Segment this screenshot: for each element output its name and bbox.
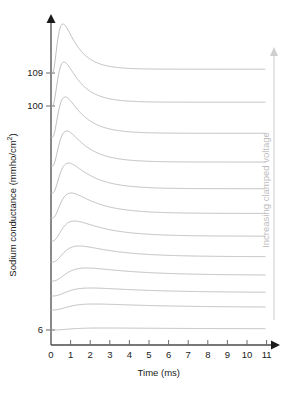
svg-text:Sodium conductance (mmho/cm2): Sodium conductance (mmho/cm2) [6,133,18,276]
conductance-curve [51,221,265,241]
annotation-up-arrow-icon [270,47,278,56]
x-tick-label: 0 [48,349,53,360]
y-tick-label: 109 [27,67,43,78]
conductance-curve [51,304,265,310]
y-axis-title: Sodium conductance (mmho/cm2) [6,133,18,276]
conductance-curve [51,163,265,193]
x-tick-label: 8 [205,349,210,360]
chart-figure: 01234567891011Time (ms)1091006Sodium con… [0,0,293,393]
conductance-curve [51,268,265,281]
conductance-curve [51,97,265,137]
x-tick-label: 7 [186,349,191,360]
x-tick-label: 10 [242,349,253,360]
conductance-curve [51,246,265,262]
annotation-label: Increasing clamped voltage [260,132,271,248]
x-tick-label: 3 [107,349,112,360]
conductance-curve [51,24,265,73]
annotation-group: Increasing clamped voltage [260,47,278,320]
x-axis-title: Time (ms) [138,367,180,378]
x-axis-arrow-icon [271,341,280,350]
x-tick-label: 11 [262,349,272,360]
chart-canvas: 01234567891011Time (ms)1091006Sodium con… [0,0,293,393]
conductance-curve [51,193,265,218]
conductance-curve [51,328,265,330]
y-tick-label: 100 [27,100,43,111]
x-tick-label: 1 [68,349,73,360]
x-tick-label: 2 [88,349,93,360]
x-tick-label: 4 [127,349,132,360]
x-tick-label: 6 [166,349,171,360]
conductance-curve [51,131,265,166]
y-tick-label: 6 [38,324,43,335]
curve-group [51,24,265,330]
axes-group [47,14,281,350]
x-tick-label: 5 [146,349,151,360]
y-axis-arrow-icon [47,14,56,23]
conductance-curve [51,288,265,296]
x-tick-label: 9 [225,349,230,360]
conductance-curve [51,62,265,106]
x-tick-group: 01234567891011 [48,340,271,360]
